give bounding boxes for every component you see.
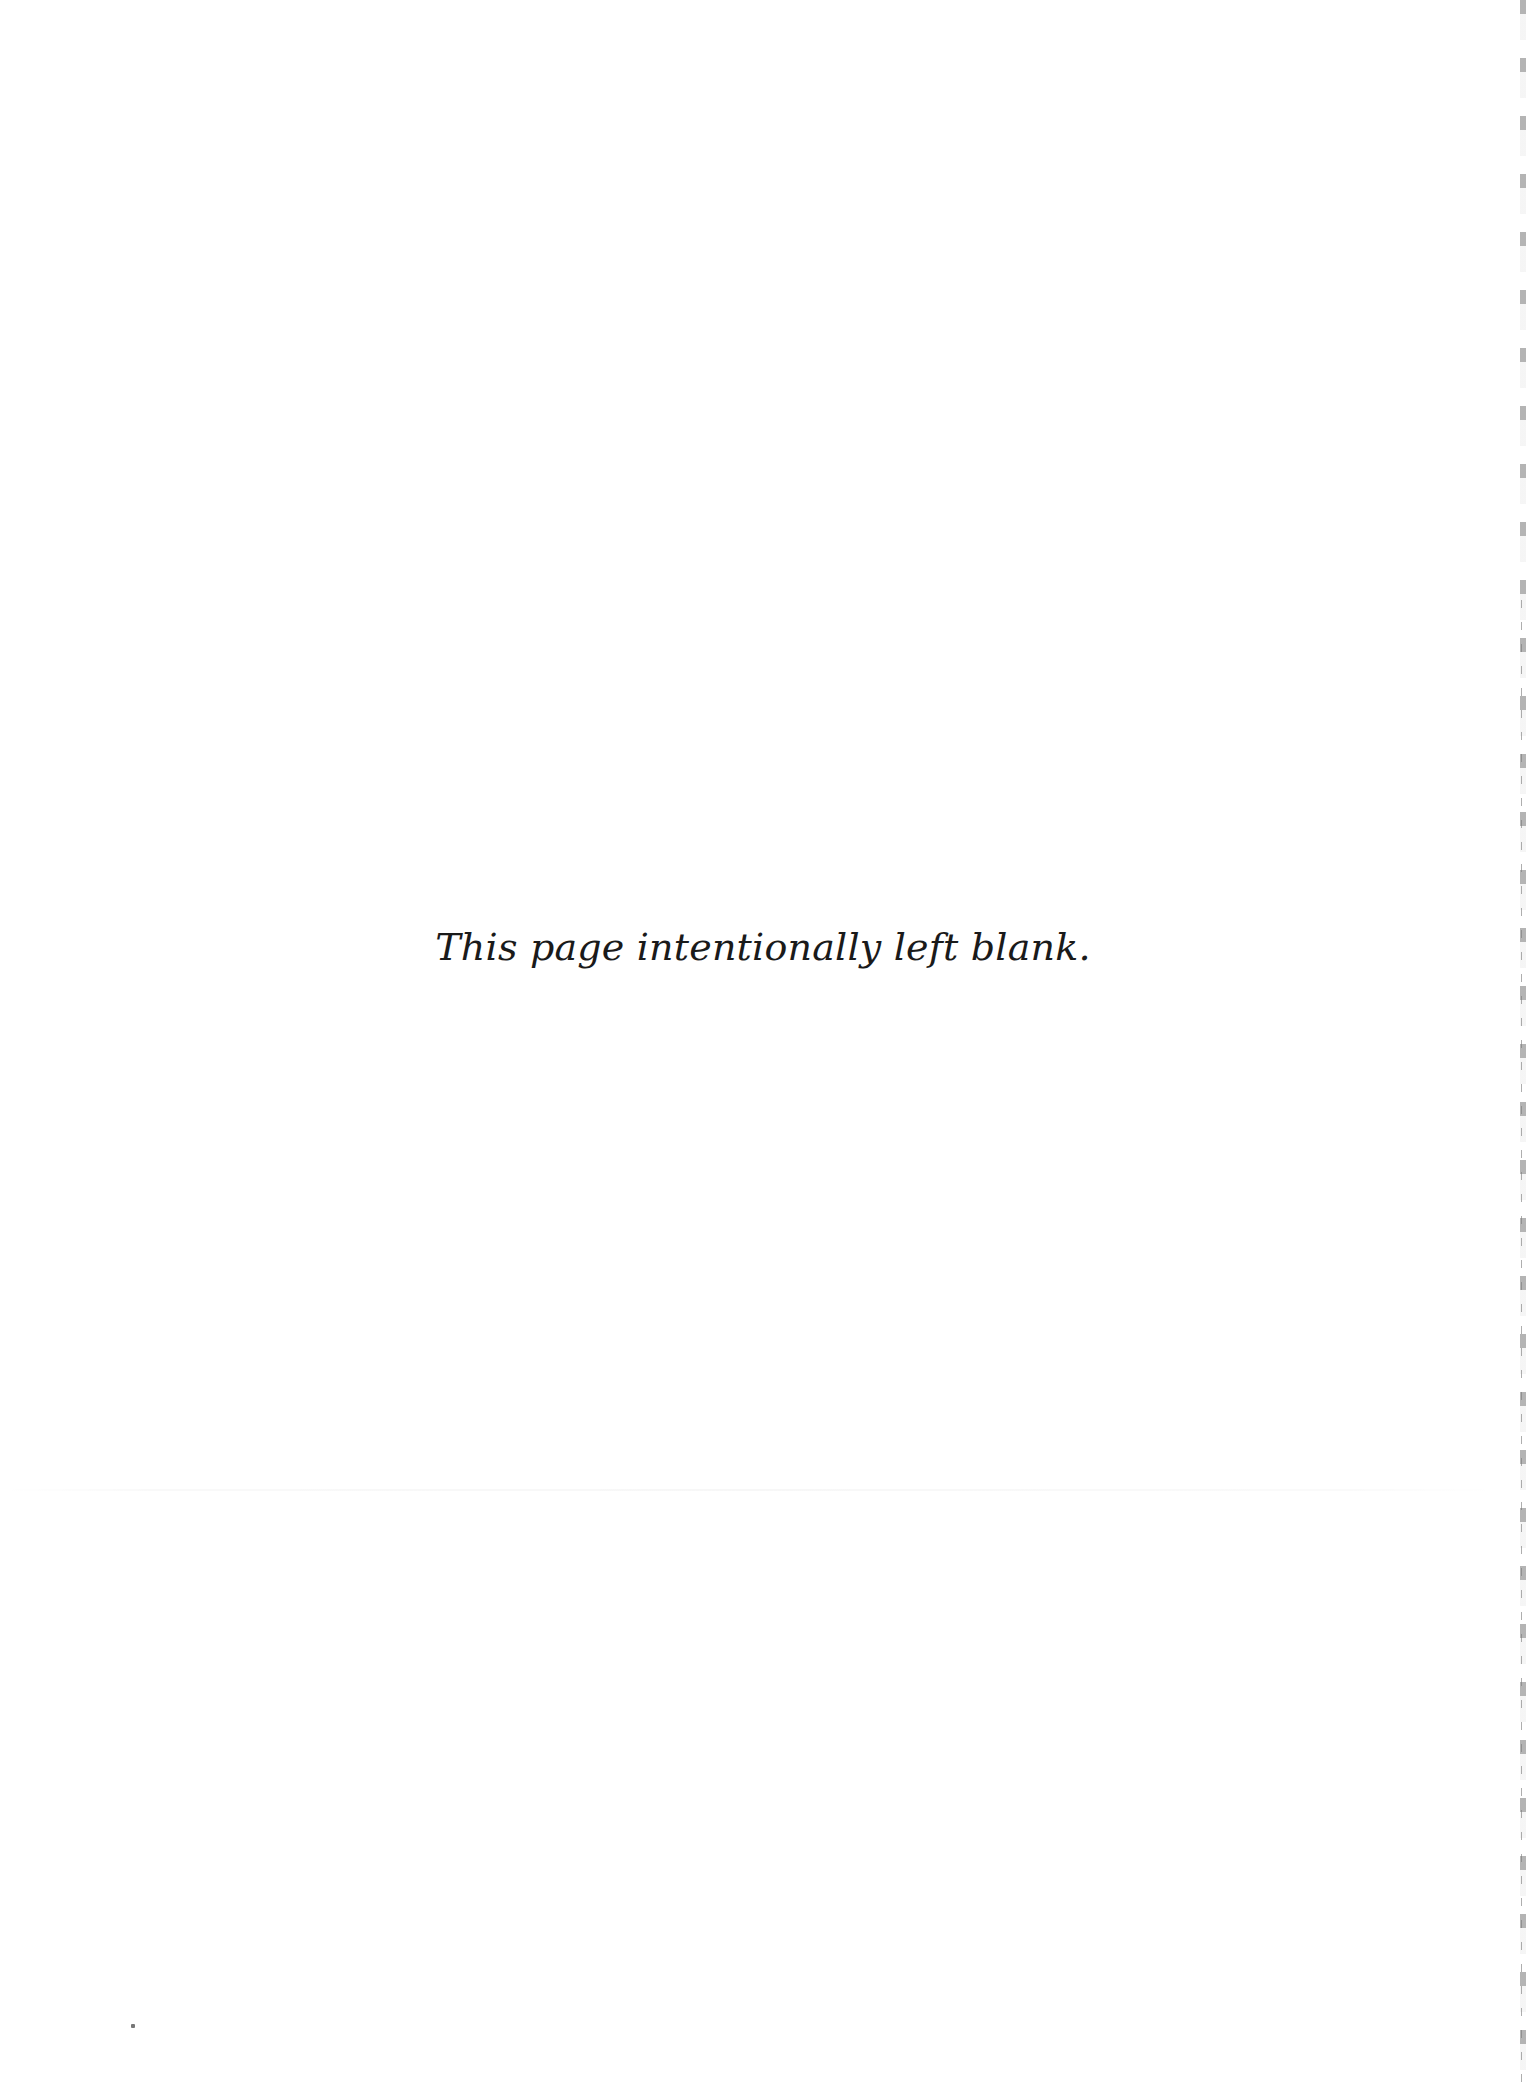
page-crease-line (0, 1489, 1500, 1491)
scan-edge-dashed-line (1521, 600, 1522, 2086)
blank-page-notice: This page intentionally left blank. (0, 925, 1526, 971)
scan-speck-dot (131, 2024, 135, 2028)
blank-book-page: This page intentionally left blank. (0, 0, 1526, 2086)
